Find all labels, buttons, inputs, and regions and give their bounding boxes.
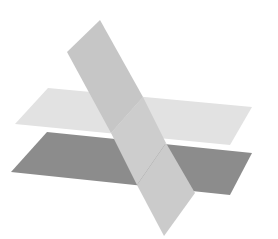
diagram-canvas [0, 0, 278, 239]
planes-diagram [0, 0, 278, 239]
